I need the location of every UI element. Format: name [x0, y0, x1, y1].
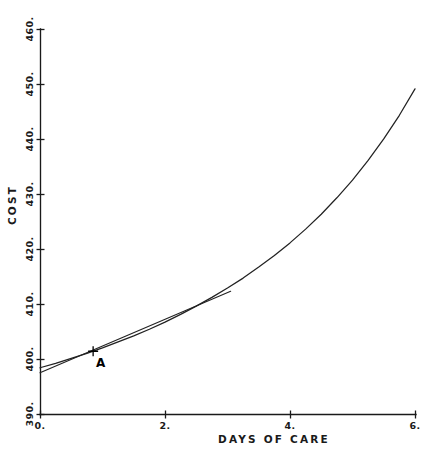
- x-tick-label-0: 0.: [34, 420, 45, 431]
- y-tick-label-440: 440.: [24, 126, 35, 151]
- chart-container: 460. 450. 440. 430. 420. 410. 400. 390. …: [0, 0, 427, 449]
- x-axis-title: DAYS OF CARE: [218, 433, 330, 445]
- point-A-label: A: [96, 356, 106, 370]
- y-tick-label-430: 430.: [24, 181, 35, 206]
- tangent-line-at-A: [40, 291, 231, 372]
- y-tick-label-460: 460.: [24, 16, 35, 41]
- x-tick-label-6: 6.: [409, 420, 420, 431]
- plus-icon: [88, 346, 98, 356]
- y-tick-label-390: 390.: [24, 401, 35, 426]
- y-tick-label-450: 450.: [24, 71, 35, 96]
- y-tick-label-420: 420.: [24, 236, 35, 261]
- point-A-marker: [88, 346, 98, 356]
- chart-plot-area: 460. 450. 440. 430. 420. 410. 400. 390. …: [0, 0, 427, 449]
- y-axis-title: COST: [6, 185, 18, 225]
- cost-curve: [40, 89, 415, 368]
- y-tick-label-410: 410.: [24, 291, 35, 316]
- y-tick-label-400: 400.: [24, 346, 35, 371]
- x-tick-label-2: 2.: [159, 420, 170, 431]
- x-tick-label-4: 4.: [284, 420, 295, 431]
- x-axis-tick-labels: 0. 2. 4. 6.: [34, 420, 420, 431]
- y-axis-tick-labels: 460. 450. 440. 430. 420. 410. 400. 390.: [24, 16, 35, 426]
